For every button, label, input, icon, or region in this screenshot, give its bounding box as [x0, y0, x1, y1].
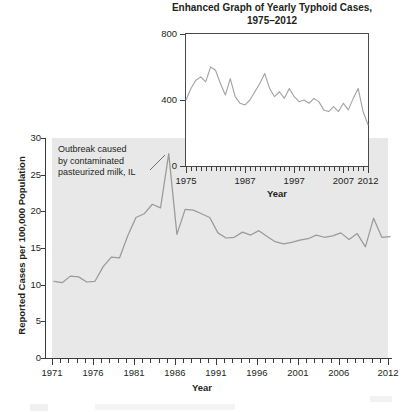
inset-x-tick-label: 2007: [333, 175, 354, 186]
inset-x-tick-label: 2012: [357, 175, 378, 186]
main-x-tick-minor: [290, 359, 291, 363]
figure-canvas: 051015202530 197119761981198619911996200…: [0, 0, 404, 412]
main-x-tick-minor: [314, 359, 315, 363]
main-x-tick-label: 1996: [246, 367, 267, 378]
main-x-tick-minor: [273, 359, 274, 363]
inset-x-tick-minor: [191, 167, 192, 171]
main-x-tick-minor: [241, 359, 242, 363]
inset-x-tick-minor: [348, 167, 349, 171]
main-x-tick-label: 2001: [287, 367, 308, 378]
inset-x-tick-minor: [280, 167, 281, 171]
main-x-tick-minor: [224, 359, 225, 363]
inset-x-tick-major: [368, 167, 369, 173]
main-x-tick-minor: [118, 359, 119, 363]
main-x-tick-minor: [68, 359, 69, 363]
main-x-tick-label: 1981: [123, 367, 144, 378]
inset-title-line-1: Enhanced Graph of Yearly Typhoid Cases,: [140, 2, 404, 15]
main-x-tick-major: [93, 359, 94, 365]
inset-data-line: [186, 34, 368, 166]
main-y-tick: [41, 321, 46, 322]
inset-x-tick-major: [294, 167, 295, 173]
main-x-tick-label: 1991: [205, 367, 226, 378]
main-y-tick: [41, 138, 46, 139]
main-x-tick-minor: [380, 359, 381, 363]
inset-x-tick-minor: [265, 167, 266, 171]
main-x-tick-label: 1976: [82, 367, 103, 378]
main-y-axis-title: Reported Cases per 100,000 Population: [16, 131, 27, 361]
main-x-tick-major: [52, 359, 53, 365]
main-x-tick-minor: [60, 359, 61, 363]
main-x-tick-minor: [85, 359, 86, 363]
main-y-tick: [41, 175, 46, 176]
main-x-axis-title: Year: [0, 382, 404, 393]
inset-x-tick-major: [343, 167, 344, 173]
inset-x-tick-minor: [196, 167, 197, 171]
main-x-tick-minor: [200, 359, 201, 363]
main-x-tick-minor: [232, 359, 233, 363]
inset-x-tick-label: 1987: [234, 175, 255, 186]
inset-title-line-2: 1975–2012: [140, 15, 404, 28]
inset-x-tick-label: 1997: [284, 175, 305, 186]
inset-chart-title: Enhanced Graph of Yearly Typhoid Cases, …: [140, 2, 404, 27]
main-x-tick-major: [257, 359, 258, 365]
inset-x-tick-minor: [304, 167, 305, 171]
inset-x-tick-minor: [319, 167, 320, 171]
inset-y-tick: [180, 166, 185, 167]
inset-x-tick-minor: [211, 167, 212, 171]
main-x-tick-minor: [282, 359, 283, 363]
main-x-tick-minor: [183, 359, 184, 363]
inset-x-tick-minor: [220, 167, 221, 171]
main-x-tick-minor: [249, 359, 250, 363]
inset-x-tick-minor: [235, 167, 236, 171]
inset-x-tick-minor: [270, 167, 271, 171]
main-x-tick-minor: [126, 359, 127, 363]
main-x-tick-minor: [355, 359, 356, 363]
main-x-tick-label: 2012: [377, 367, 398, 378]
inset-x-tick-minor: [309, 167, 310, 171]
main-x-tick-minor: [331, 359, 332, 363]
inset-y-tick-label: 400: [149, 94, 177, 105]
main-x-tick-label: 1986: [164, 367, 185, 378]
scan-artifact: [370, 396, 392, 402]
scan-artifact: [95, 404, 235, 410]
inset-x-tick-minor: [225, 167, 226, 171]
inset-x-tick-minor: [255, 167, 256, 171]
inset-x-tick-minor: [284, 167, 285, 171]
main-x-axis-line: [45, 358, 392, 359]
main-y-tick: [41, 248, 46, 249]
inset-x-tick-minor: [353, 167, 354, 171]
main-x-tick-label: 1971: [41, 367, 62, 378]
main-x-tick-major: [134, 359, 135, 365]
inset-x-tick-major: [186, 167, 187, 173]
inset-y-tick-label: 0: [149, 160, 177, 171]
inset-x-tick-minor: [329, 167, 330, 171]
inset-x-tick-label: 1975: [175, 175, 196, 186]
main-x-tick-major: [388, 359, 389, 365]
inset-x-tick-minor: [334, 167, 335, 171]
main-x-tick-minor: [150, 359, 151, 363]
main-y-tick: [41, 358, 46, 359]
inset-x-tick-major: [245, 167, 246, 173]
inset-x-tick-minor: [216, 167, 217, 171]
inset-y-tick: [180, 100, 185, 101]
main-x-tick-minor: [322, 359, 323, 363]
main-x-tick-major: [339, 359, 340, 365]
inset-x-tick-minor: [275, 167, 276, 171]
inset-x-tick-minor: [339, 167, 340, 171]
inset-x-tick-minor: [250, 167, 251, 171]
main-x-tick-minor: [77, 359, 78, 363]
main-x-tick-minor: [142, 359, 143, 363]
inset-x-tick-minor: [314, 167, 315, 171]
scan-artifact: [30, 404, 48, 411]
main-x-tick-minor: [109, 359, 110, 363]
main-x-tick-minor: [363, 359, 364, 363]
main-x-tick-minor: [159, 359, 160, 363]
inset-x-tick-minor: [299, 167, 300, 171]
main-x-tick-major: [216, 359, 217, 365]
inset-x-tick-minor: [289, 167, 290, 171]
inset-x-axis-title: Year: [185, 188, 369, 199]
main-x-tick-minor: [372, 359, 373, 363]
main-x-tick-minor: [347, 359, 348, 363]
inset-x-tick-minor: [260, 167, 261, 171]
inset-x-tick-minor: [363, 167, 364, 171]
